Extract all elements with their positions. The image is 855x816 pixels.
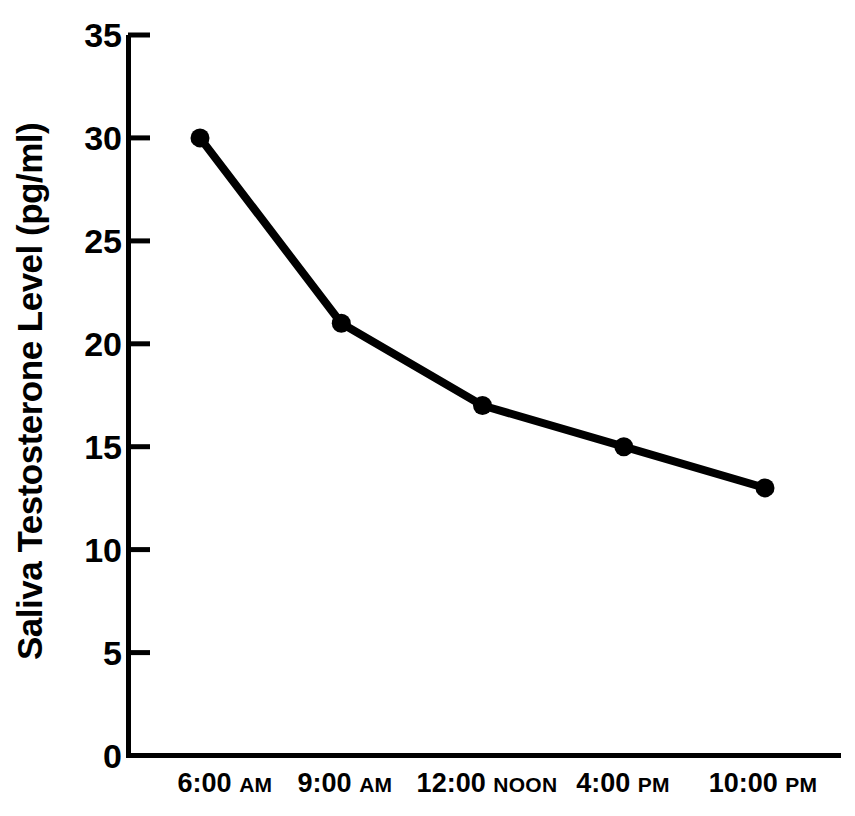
data-point-10pm	[756, 478, 775, 497]
x-tick-time-4pm: 4:00	[576, 768, 630, 798]
x-tick-time-10pm: 10:00	[709, 768, 778, 798]
y-axis-ticks	[128, 35, 150, 653]
data-point-12noon	[473, 396, 492, 415]
data-point-6am	[191, 128, 210, 147]
data-point-4pm	[614, 437, 633, 456]
x-tick-time-6am: 6:00	[178, 768, 232, 798]
data-line-series-0	[200, 138, 765, 488]
x-tick-suffix-10pm: PM	[785, 773, 817, 796]
x-tick-time-9am: 9:00	[298, 768, 352, 798]
testosterone-line-chart: Saliva Testosterone Level (pg/ml) 35 30 …	[0, 0, 855, 816]
x-tick-time-12noon: 12:00	[417, 768, 486, 798]
data-point-markers	[191, 128, 775, 497]
plot-area	[0, 0, 855, 816]
x-tick-label-10pm: 10:00 PM	[653, 770, 855, 797]
data-point-9am	[332, 314, 351, 333]
